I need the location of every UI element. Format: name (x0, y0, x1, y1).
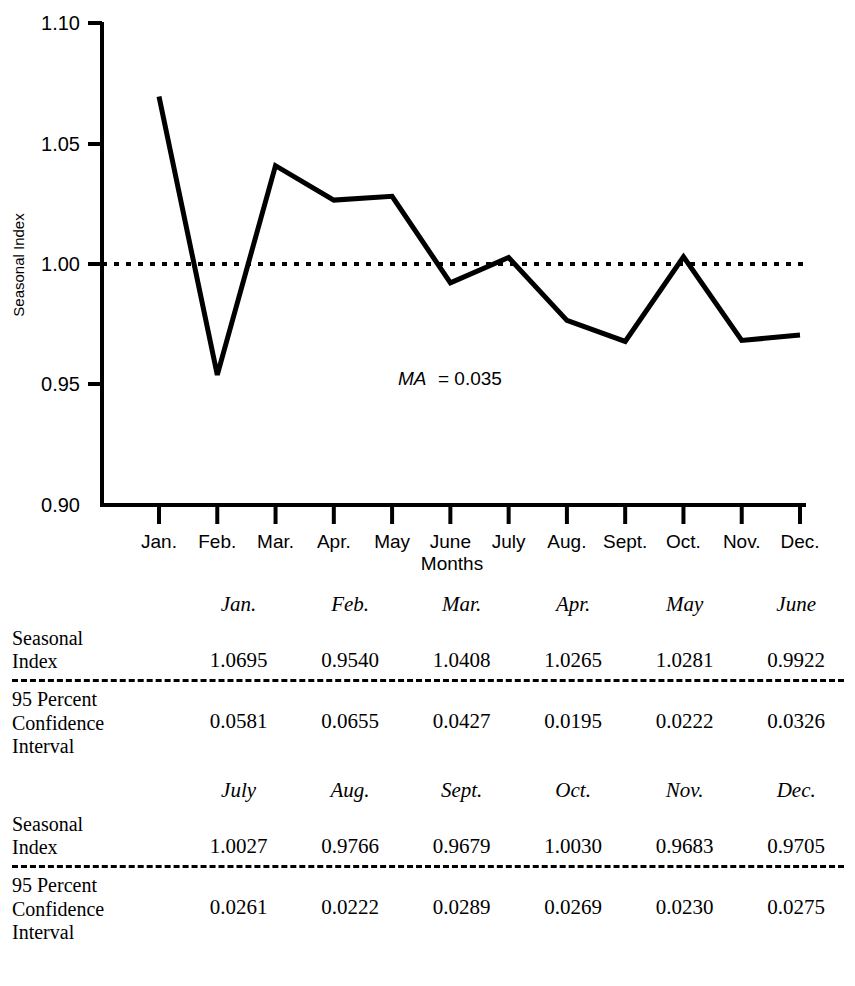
header-corner-cell (12, 588, 183, 627)
table-separator-dashed (12, 865, 844, 868)
ma-annotation-value: = 0.035 (438, 368, 502, 389)
column-header-month: May (629, 588, 741, 627)
cell-confidence-interval: 0.0261 (183, 874, 295, 944)
cell-seasonal-index: 1.0695 (183, 627, 295, 673)
y-axis-title: Seasonal Index (10, 213, 27, 317)
block-spacer (0, 758, 855, 774)
cell-confidence-interval: 0.0269 (517, 874, 629, 944)
cell-seasonal-index: 0.9540 (294, 627, 406, 673)
cell-seasonal-index: 0.9683 (629, 813, 741, 859)
cell-confidence-interval: 0.0195 (517, 688, 629, 758)
header-corner-cell (12, 774, 183, 813)
chart-canvas: 1.10 1.05 1.00 0.95 0.90 Seasonal Index … (0, 0, 855, 590)
table-header-row: Jan. Feb. Mar. Apr. May June (12, 588, 852, 627)
y-tick-label-100: 1.00 (41, 253, 80, 275)
x-tick-label-aug: Aug. (547, 531, 586, 552)
cell-seasonal-index: 1.0265 (517, 627, 629, 673)
ma-annotation-symbol: MA (398, 368, 427, 389)
x-tick-label-sept: Sept. (603, 531, 647, 552)
cell-seasonal-index: 0.9922 (740, 627, 852, 673)
table-separator-dashed (12, 679, 844, 682)
x-tick-label-oct: Oct. (666, 531, 701, 552)
cell-confidence-interval: 0.0289 (406, 874, 518, 944)
column-header-month: Sept. (406, 774, 518, 813)
cell-confidence-interval: 0.0326 (740, 688, 852, 758)
row-label-confidence-interval: 95 Percent Confidence Interval (12, 874, 183, 944)
x-tick-label-mar: Mar. (257, 531, 294, 552)
cell-confidence-interval: 0.0427 (406, 688, 518, 758)
cell-seasonal-index: 0.9679 (406, 813, 518, 859)
x-tick-label-apr: Apr. (317, 531, 351, 552)
column-header-month: Dec. (740, 774, 852, 813)
column-header-month: Feb. (294, 588, 406, 627)
x-tick-label-july: July (492, 531, 526, 552)
seasonal-index-line (159, 97, 800, 375)
x-axis-ticks (159, 505, 800, 524)
row-label-seasonal-index: Seasonal Index (12, 627, 183, 673)
column-header-month: July (183, 774, 295, 813)
x-tick-label-jan: Jan. (141, 531, 177, 552)
y-axis-ticks (88, 23, 102, 384)
table-row: Seasonal Index 1.0027 0.9766 0.9679 1.00… (12, 813, 852, 859)
data-table-first-half: Jan. Feb. Mar. Apr. May June Seasonal In… (12, 588, 852, 673)
column-header-month: Aug. (294, 774, 406, 813)
seasonal-index-tables: Jan. Feb. Mar. Apr. May June Seasonal In… (0, 588, 855, 944)
table-block-first-half: Jan. Feb. Mar. Apr. May June Seasonal In… (0, 588, 855, 758)
y-tick-label-090: 0.90 (41, 494, 80, 516)
table-row: Seasonal Index 1.0695 0.9540 1.0408 1.02… (12, 627, 852, 673)
data-table-second-half: July Aug. Sept. Oct. Nov. Dec. Seasonal … (12, 774, 852, 859)
cell-seasonal-index: 0.9705 (740, 813, 852, 859)
y-tick-label-110: 1.10 (41, 12, 80, 34)
cell-seasonal-index: 1.0408 (406, 627, 518, 673)
x-tick-label-may: May (374, 531, 410, 552)
column-header-month: June (740, 588, 852, 627)
cell-seasonal-index: 1.0027 (183, 813, 295, 859)
cell-confidence-interval: 0.0222 (629, 688, 741, 758)
cell-seasonal-index: 1.0030 (517, 813, 629, 859)
x-tick-label-nov: Nov. (723, 531, 761, 552)
cell-confidence-interval: 0.0655 (294, 688, 406, 758)
x-tick-label-feb: Feb. (198, 531, 236, 552)
column-header-month: Jan. (183, 588, 295, 627)
cell-confidence-interval: 0.0230 (629, 874, 741, 944)
column-header-month: Apr. (517, 588, 629, 627)
x-axis-tick-labels: Jan.Feb.Mar.Apr.MayJuneJulyAug.Sept.Oct.… (141, 531, 820, 552)
cell-seasonal-index: 0.9766 (294, 813, 406, 859)
column-header-month: Oct. (517, 774, 629, 813)
x-tick-label-dec: Dec. (780, 531, 819, 552)
table-row: 95 Percent Confidence Interval 0.0261 0.… (12, 874, 852, 944)
x-tick-label-june: June (430, 531, 471, 552)
data-table-second-half-ci: 95 Percent Confidence Interval 0.0261 0.… (12, 874, 852, 944)
y-tick-label-095: 0.95 (41, 373, 80, 395)
seasonal-index-chart: 1.10 1.05 1.00 0.95 0.90 Seasonal Index … (0, 0, 855, 590)
cell-confidence-interval: 0.0222 (294, 874, 406, 944)
table-header-row: July Aug. Sept. Oct. Nov. Dec. (12, 774, 852, 813)
row-label-confidence-interval: 95 Percent Confidence Interval (12, 688, 183, 758)
cell-seasonal-index: 1.0281 (629, 627, 741, 673)
cell-confidence-interval: 0.0275 (740, 874, 852, 944)
cell-confidence-interval: 0.0581 (183, 688, 295, 758)
column-header-month: Nov. (629, 774, 741, 813)
table-row: 95 Percent Confidence Interval 0.0581 0.… (12, 688, 852, 758)
x-axis-title: Months (421, 553, 483, 574)
data-table-first-half-ci: 95 Percent Confidence Interval 0.0581 0.… (12, 688, 852, 758)
y-tick-label-105: 1.05 (41, 133, 80, 155)
column-header-month: Mar. (406, 588, 518, 627)
row-label-seasonal-index: Seasonal Index (12, 813, 183, 859)
table-block-second-half: July Aug. Sept. Oct. Nov. Dec. Seasonal … (0, 774, 855, 944)
